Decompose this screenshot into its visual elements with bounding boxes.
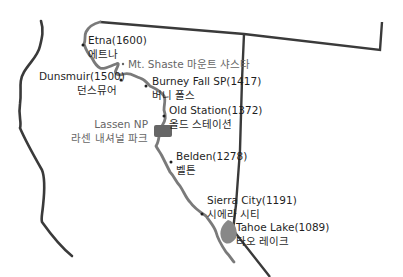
place-name-korean: 던스뮤어 [39, 84, 119, 96]
burney-label: Burney Fall SP(1417) 버니 폴스 [152, 75, 261, 101]
sierra-city-label: Sierra City(1191) 시에라 시티 [207, 194, 297, 220]
place-name-korean: 시에라 시티 [207, 208, 297, 220]
belden-marker-icon [170, 161, 173, 164]
place-name: Old Station(1372) [169, 104, 262, 116]
sierra-city-marker-icon [201, 213, 204, 216]
dunsmuir-label: Dunsmuir(1500) 던스뮤어 [39, 70, 119, 96]
place-name: Belden(1278) [176, 150, 247, 162]
place-name: Lassen NP [60, 118, 148, 130]
etna-label: Etna(1600) 에트나 [88, 34, 147, 60]
belden-label: Belden(1278) 벨튼 [176, 150, 247, 176]
shasta-marker-icon [122, 63, 124, 65]
place-name-korean: 버니 폴스 [152, 89, 261, 101]
place-name: Dunsmuir(1500) [39, 70, 119, 82]
place-name-korean: 타오 레이크 [236, 235, 329, 247]
lassen-label: Lassen NP 라센 내셔널 파크 [60, 118, 148, 144]
place-name-korean: 라센 내셔널 파크 [60, 132, 148, 144]
place-name: Etna(1600) [88, 34, 147, 46]
place-name-korean: 올드 스테이션 [169, 118, 262, 130]
place-name: Sierra City(1191) [207, 194, 297, 206]
place-name: Burney Fall SP(1417) [152, 75, 261, 87]
etna-marker-icon [82, 44, 85, 47]
place-name: Mt. Shaste 마운트 샤스타 [128, 58, 250, 70]
old-station-marker-icon [163, 115, 166, 118]
burney-marker-icon [145, 85, 148, 88]
place-name: Tahoe Lake(1089) [236, 221, 329, 233]
tahoe-label: Tahoe Lake(1089) 타오 레이크 [236, 221, 329, 247]
place-name-korean: 벨튼 [176, 164, 247, 176]
shasta-label: Mt. Shaste 마운트 샤스타 [128, 58, 250, 70]
old-station-label: Old Station(1372) 올드 스테이션 [169, 104, 262, 130]
